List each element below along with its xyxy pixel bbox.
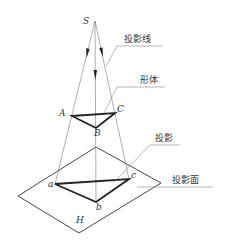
label-c-lower: c [131,170,136,180]
projection-triangle [55,179,129,202]
object-triangle [72,113,115,128]
label-h: H [75,215,84,225]
annotation-projection: 投影 [155,132,173,143]
central-projection-diagram: S A B C a b c H 投影线 形体 投影 投影面 [0,0,226,250]
projection-line-sa [55,21,95,184]
projection-line-sb [95,21,96,202]
label-b-upper: B [93,128,101,138]
arrow-icon [86,48,89,58]
projection-line-sc [95,21,129,179]
projection-plane [18,147,161,233]
arrow-icon [94,70,97,80]
label-b-lower: b [96,202,102,212]
arrow-icon [99,48,103,58]
leader-projection-line [106,46,162,66]
label-s: S [83,16,89,26]
leader-object [104,87,165,113]
label-a-lower: a [48,179,53,189]
label-c-upper: C [117,104,124,114]
annotation-projection-line: 投影线 [124,33,151,44]
annotation-projection-plane: 投影面 [172,174,199,185]
label-a-upper: A [58,108,66,118]
annotation-object: 形体 [140,74,158,85]
